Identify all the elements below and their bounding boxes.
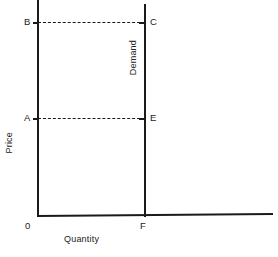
- point-label-c: C: [150, 17, 157, 27]
- price-axis-tick-a: [33, 118, 39, 120]
- price-axis-title: Price: [4, 132, 14, 154]
- point-label-f: F: [140, 221, 146, 231]
- quantity-axis-title: Quantity: [64, 234, 99, 244]
- dashed-guide-line-ae: [38, 118, 145, 119]
- price-axis-tick-b: [33, 22, 39, 24]
- point-label-b: B: [24, 17, 30, 27]
- point-label-origin: 0: [25, 221, 30, 231]
- demand-curve-line: [144, 4, 146, 217]
- point-label-e: E: [150, 113, 156, 123]
- dashed-guide-line-bc: [38, 22, 145, 23]
- quantity-axis-line: [37, 213, 273, 217]
- point-label-a: A: [24, 113, 30, 123]
- demand-curve-label: Demand: [128, 40, 138, 75]
- price-axis-line: [37, 0, 39, 217]
- demand-curve-figure: Price Quantity Demand B C A E 0 F: [0, 0, 278, 257]
